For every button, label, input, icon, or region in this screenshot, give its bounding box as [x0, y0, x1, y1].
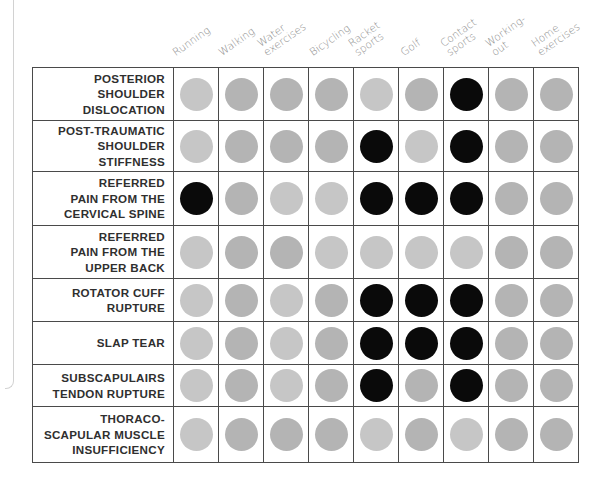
row-label: POST-TRAUMATIC SHOULDER STIFFNESS: [33, 121, 174, 172]
gray-dot-icon: [270, 418, 303, 451]
gray-dot-icon: [270, 236, 303, 269]
grid-cell: [309, 68, 354, 121]
grid-cell: [264, 172, 309, 226]
gray-dot-icon: [180, 284, 213, 317]
gray-dot-icon: [315, 284, 348, 317]
grid-cell: [534, 68, 579, 121]
grid-cell: [444, 226, 489, 279]
filled-dot-icon: [405, 327, 438, 360]
row-label: REFERRED PAIN FROM THE UPPER BACK: [33, 226, 174, 279]
grid-cell: [174, 322, 219, 365]
grid-cell: [264, 322, 309, 365]
grid-cell: [354, 279, 399, 322]
grid-cell: [444, 322, 489, 365]
gray-dot-icon: [180, 369, 213, 402]
gray-dot-icon: [315, 369, 348, 402]
grid-cell: [534, 322, 579, 365]
grid-cell: [219, 279, 264, 322]
grid-cell: [534, 365, 579, 407]
gray-dot-icon: [315, 130, 348, 163]
row-label: ROTATOR CUFF RUPTURE: [33, 279, 174, 322]
grid-cell: [354, 407, 399, 463]
gray-dot-icon: [180, 418, 213, 451]
gray-dot-icon: [315, 182, 348, 215]
grid-cell: [354, 322, 399, 365]
gray-dot-icon: [315, 327, 348, 360]
gray-dot-icon: [405, 78, 438, 111]
grid-cell: [174, 226, 219, 279]
filled-dot-icon: [450, 78, 483, 111]
gray-dot-icon: [360, 418, 393, 451]
grid-cell: [219, 226, 264, 279]
grid-cell: [489, 226, 534, 279]
column-header: Water exercises: [256, 2, 302, 62]
filled-dot-icon: [405, 182, 438, 215]
gray-dot-icon: [405, 236, 438, 269]
column-header: Racket sports: [347, 2, 393, 62]
grid-cell: [399, 407, 444, 463]
gray-dot-icon: [270, 78, 303, 111]
gray-dot-icon: [315, 236, 348, 269]
table-row: POST-TRAUMATIC SHOULDER STIFFNESS: [33, 121, 579, 172]
gray-dot-icon: [270, 369, 303, 402]
gray-dot-icon: [540, 418, 573, 451]
filled-dot-icon: [180, 182, 213, 215]
grid-cell: [174, 365, 219, 407]
filled-dot-icon: [450, 369, 483, 402]
filled-dot-icon: [360, 130, 393, 163]
grid-cell: [444, 68, 489, 121]
grid-cell: [264, 226, 309, 279]
filled-dot-icon: [405, 284, 438, 317]
gray-dot-icon: [360, 236, 393, 269]
gray-dot-icon: [270, 284, 303, 317]
gray-dot-icon: [225, 182, 258, 215]
table-row: REFERRED PAIN FROM THE UPPER BACK: [33, 226, 579, 279]
column-header: Bicycling: [302, 2, 348, 62]
grid-cell: [399, 322, 444, 365]
grid-cell: [534, 279, 579, 322]
row-label: THORACO- SCAPULAR MUSCLE INSUFFICIENCY: [33, 407, 174, 463]
gray-dot-icon: [495, 130, 528, 163]
gray-dot-icon: [495, 182, 528, 215]
filled-dot-icon: [360, 284, 393, 317]
row-label: REFERRED PAIN FROM THE CERVICAL SPINE: [33, 172, 174, 226]
grid-cell: [399, 226, 444, 279]
grid-cell: [309, 365, 354, 407]
table-row: SUBSCAPULAIRS TENDON RUPTURE: [33, 365, 579, 407]
column-header: Contact sports: [439, 2, 485, 62]
gray-dot-icon: [495, 78, 528, 111]
gray-dot-icon: [405, 418, 438, 451]
grid-cell: [309, 322, 354, 365]
grid-cell: [444, 172, 489, 226]
gray-dot-icon: [540, 284, 573, 317]
gray-dot-icon: [225, 130, 258, 163]
row-label: POSTERIOR SHOULDER DISLOCATION: [33, 68, 174, 121]
table-row: SLAP TEAR: [33, 322, 579, 365]
gray-dot-icon: [180, 236, 213, 269]
grid-cell: [219, 322, 264, 365]
filled-dot-icon: [360, 182, 393, 215]
table-row: THORACO- SCAPULAR MUSCLE INSUFFICIENCY: [33, 407, 579, 463]
grid-cell: [489, 121, 534, 172]
grid-cell: [444, 365, 489, 407]
column-header-label: Golf: [399, 37, 423, 58]
grid-cell: [354, 68, 399, 121]
gray-dot-icon: [225, 327, 258, 360]
grid-cell: [219, 407, 264, 463]
grid-cell: [534, 121, 579, 172]
column-header: Golf: [393, 2, 439, 62]
gray-dot-icon: [270, 327, 303, 360]
grid-cell: [174, 407, 219, 463]
grid-cell: [489, 407, 534, 463]
grid-cell: [354, 172, 399, 226]
grid-cell: [219, 365, 264, 407]
side-rule: [5, 0, 14, 389]
column-header-label: Running: [171, 25, 212, 58]
column-header: Running: [165, 2, 211, 62]
gray-dot-icon: [540, 236, 573, 269]
grid-cell: [174, 279, 219, 322]
grid-cell: [399, 172, 444, 226]
filled-dot-icon: [450, 327, 483, 360]
gray-dot-icon: [495, 369, 528, 402]
gray-dot-icon: [450, 418, 483, 451]
